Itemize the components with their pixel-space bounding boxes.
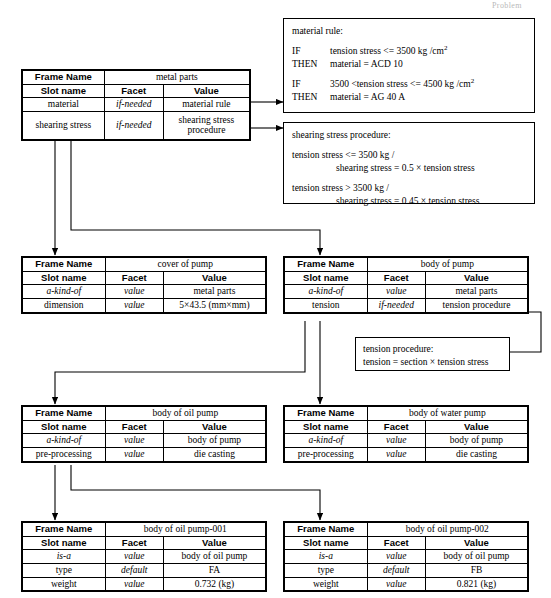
frame-name-label: Frame Name: [23, 258, 106, 272]
slot-name: is-a: [23, 550, 106, 564]
slot-value: body of pump: [425, 434, 527, 448]
table-header-row: Slot name Facet Value: [285, 536, 528, 550]
facet: if-needed: [367, 298, 425, 312]
note-title: shearing stress procedure:: [292, 129, 526, 142]
frame-name-value: body of water pump: [367, 407, 527, 421]
note-title: tension procedure:: [363, 343, 502, 356]
rule-line: IF 3500 <tension stress <= 4500 kg /cm2: [292, 78, 526, 91]
frame-name-label: Frame Name: [23, 523, 106, 537]
facet: value: [105, 447, 163, 461]
frame-body-of-pump: Frame Name body of pump Slot name Facet …: [283, 256, 529, 314]
table-row: weight value 0.732 (kg): [23, 577, 266, 591]
frame-name-value: body of oil pump-001: [105, 523, 265, 537]
slot-value: body of pump: [163, 434, 265, 448]
slot-name: type: [23, 563, 106, 577]
rule-keyword-if: IF: [292, 45, 330, 58]
table-header-row: Slot name Facet Value: [23, 420, 266, 434]
slot-name: pre-processing: [23, 447, 106, 461]
table-header-row: Slot name Facet Value: [23, 84, 250, 98]
table-row: tension if-needed tension procedure: [285, 298, 528, 312]
table-row: Frame Name body of water pump: [285, 407, 528, 421]
column-header-slot-name: Slot name: [23, 271, 106, 285]
frame-name-value: body of oil pump-002: [367, 523, 527, 537]
procedure-line: tension = section × tension stress: [363, 356, 502, 369]
table-row: Frame Name body of oil pump-002: [285, 523, 528, 537]
slot-value: 0.732 (kg): [163, 577, 265, 591]
slot-name: a-kind-of: [285, 285, 368, 299]
slot-value: metal parts: [163, 285, 265, 299]
facet: value: [367, 447, 425, 461]
table-row: Frame Name body of oil pump: [23, 407, 266, 421]
slot-name: dimension: [23, 298, 106, 312]
rule-keyword-then: THEN: [292, 91, 330, 104]
rule-exponent: 2: [471, 77, 475, 85]
facet: value: [105, 285, 163, 299]
column-header-value: Value: [425, 271, 527, 285]
table-header-row: Slot name Facet Value: [285, 271, 528, 285]
frame-name-value: body of oil pump: [105, 407, 265, 421]
table-row: Frame Name metal parts: [23, 71, 250, 85]
slot-value: FB: [425, 563, 527, 577]
table-row: type default FB: [285, 563, 528, 577]
column-header-facet: Facet: [367, 536, 425, 550]
note-shearing-stress-procedure: shearing stress procedure: tension stres…: [283, 122, 535, 204]
table-row: a-kind-of value metal parts: [23, 285, 266, 299]
slot-value: FA: [163, 563, 265, 577]
table-row: Frame Name body of oil pump-001: [23, 523, 266, 537]
slot-value: material rule: [163, 98, 249, 112]
table-header-row: Slot name Facet Value: [23, 271, 266, 285]
table-row: weight value 0.821 (kg): [285, 577, 528, 591]
table-row: pre-processing value die casting: [23, 447, 266, 461]
slot-name: shearing stress: [23, 111, 105, 139]
facet: value: [367, 285, 425, 299]
table-row: a-kind-of value body of pump: [285, 434, 528, 448]
column-header-facet: Facet: [104, 84, 163, 98]
facet: value: [367, 434, 425, 448]
table-row: shearing stress if-needed shearing stres…: [23, 111, 250, 139]
column-header-value: Value: [163, 84, 249, 98]
slot-name: weight: [23, 577, 106, 591]
rule-condition: 3500 <tension stress <= 4500 kg /cm2: [330, 78, 526, 91]
column-header-facet: Facet: [367, 271, 425, 285]
rule-line: THEN material = ACD 10: [292, 58, 526, 71]
slot-value: die casting: [163, 447, 265, 461]
facet: default: [105, 563, 163, 577]
column-header-facet: Facet: [105, 271, 163, 285]
column-header-facet: Facet: [367, 420, 425, 434]
column-header-slot-name: Slot name: [23, 84, 105, 98]
rule-condition: tension stress <= 3500 kg /cm2: [330, 45, 526, 58]
slot-value: metal parts: [425, 285, 527, 299]
procedure-line: tension stress <= 3500 kg /: [292, 149, 526, 162]
slot-name: pre-processing: [285, 447, 368, 461]
column-header-slot-name: Slot name: [285, 536, 368, 550]
rule-unit: cm: [432, 46, 444, 56]
column-header-facet: Facet: [105, 420, 163, 434]
facet: value: [105, 298, 163, 312]
facet: if-needed: [104, 98, 163, 112]
frame-body-of-water-pump: Frame Name body of water pump Slot name …: [283, 405, 529, 463]
facet: default: [367, 563, 425, 577]
table-row: dimension value 5×43.5 (mm×mm): [23, 298, 266, 312]
slot-name: a-kind-of: [23, 285, 106, 299]
slot-name: weight: [285, 577, 368, 591]
column-header-slot-name: Slot name: [285, 420, 368, 434]
frame-name-label: Frame Name: [285, 407, 368, 421]
slot-value: shearing stress procedure: [163, 111, 249, 139]
frame-name-label: Frame Name: [23, 71, 105, 85]
wire-bodyofoilpump-to-002: [71, 465, 320, 520]
table-row: type default FA: [23, 563, 266, 577]
slot-name: a-kind-of: [285, 434, 368, 448]
frame-body-of-oil-pump: Frame Name body of oil pump Slot name Fa…: [21, 405, 267, 463]
slot-value: body of oil pump: [163, 550, 265, 564]
note-tension-procedure: tension procedure: tension = section × t…: [355, 337, 510, 371]
column-header-value: Value: [425, 420, 527, 434]
facet: if-needed: [104, 111, 163, 139]
rule-line: IF tension stress <= 3500 kg /cm2: [292, 45, 526, 58]
column-header-value: Value: [163, 271, 265, 285]
spacer: [292, 70, 526, 78]
column-header-facet: Facet: [105, 536, 163, 550]
column-header-value: Value: [425, 536, 527, 550]
diagram-canvas: Problem: [0, 0, 551, 598]
column-header-slot-name: Slot name: [23, 420, 106, 434]
table-row: is-a value body of oil pump: [285, 550, 528, 564]
